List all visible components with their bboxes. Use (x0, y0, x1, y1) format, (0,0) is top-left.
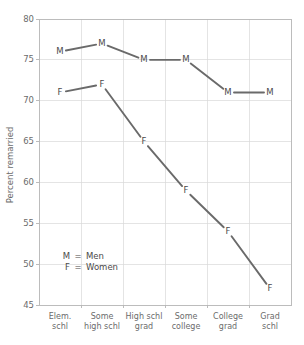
y-tick-label-60: 60 (23, 177, 34, 187)
point-F-5: F (268, 283, 273, 293)
legend-equals-0: = (74, 251, 81, 261)
x-tick-label-4: College (213, 312, 243, 321)
point-M-5: M (266, 87, 273, 97)
point-F-0: F (58, 87, 63, 97)
point-F-3: F (184, 185, 189, 195)
x-tick-label-2: grad (135, 322, 153, 331)
point-M-0: M (56, 46, 63, 56)
chart-background (0, 0, 304, 345)
x-tick-label-5: Grad (260, 312, 279, 321)
point-F-4: F (226, 226, 231, 236)
x-tick-label-1: high schl (84, 322, 120, 331)
y-tick-label-65: 65 (23, 136, 34, 146)
x-tick-label-5: schl (262, 322, 278, 331)
y-tick-label-70: 70 (23, 95, 34, 105)
y-axis-title: Percent remarried (5, 127, 15, 204)
y-tick-label-75: 75 (23, 54, 34, 64)
x-tick-label-0: schl (52, 322, 68, 331)
point-F-1: F (100, 79, 105, 89)
y-tick-label-55: 55 (23, 218, 34, 228)
x-tick-label-0: Elem. (49, 312, 72, 321)
chart-container: MMMMMMFFFFFF 4550556065707580 Elem.schlS… (0, 0, 304, 345)
legend-equals-1: = (74, 262, 81, 272)
x-tick-label-1: Some (91, 312, 114, 321)
point-F-2: F (142, 136, 147, 146)
x-tick-label-3: college (172, 322, 201, 331)
y-tick-label-45: 45 (23, 300, 34, 310)
legend-key-F: F (65, 262, 70, 272)
line-chart: MMMMMMFFFFFF 4550556065707580 Elem.schlS… (0, 0, 304, 345)
point-M-2: M (140, 54, 147, 64)
point-M-1: M (98, 38, 105, 48)
y-axis-title-text: Percent remarried (5, 127, 15, 204)
legend-label-men: Men (86, 251, 104, 261)
legend-key-M: M (63, 251, 70, 261)
x-tick-label-3: Some (175, 312, 198, 321)
legend-label-women: Women (86, 262, 118, 272)
x-tick-label-2: High schl (126, 312, 163, 321)
point-M-4: M (224, 87, 231, 97)
point-M-3: M (182, 54, 189, 64)
y-tick-label-50: 50 (23, 259, 34, 269)
y-tick-label-80: 80 (23, 14, 34, 24)
x-tick-label-4: grad (219, 322, 237, 331)
